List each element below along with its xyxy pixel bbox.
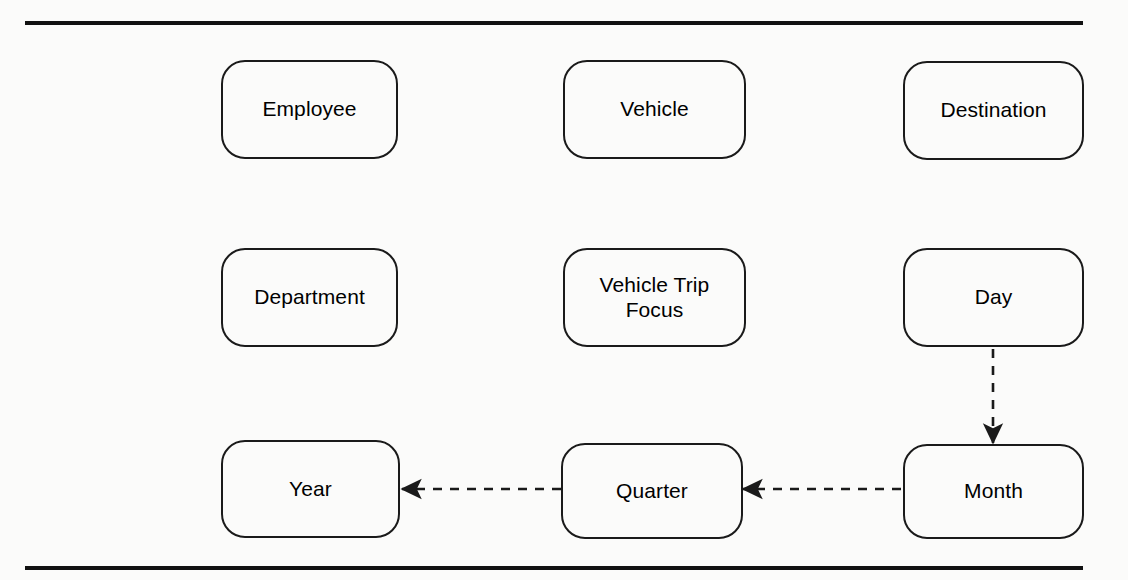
node-department[interactable]: Department: [221, 248, 398, 347]
node-fact-label-line2: Focus: [600, 298, 710, 323]
node-month-label: Month: [964, 479, 1023, 504]
node-employee-label: Employee: [262, 97, 356, 122]
node-year[interactable]: Year: [221, 440, 400, 538]
node-day-label: Day: [975, 285, 1013, 310]
figure-canvas: Employee Vehicle Destination Department …: [0, 0, 1128, 580]
node-department-label: Department: [254, 285, 365, 310]
node-vehicle-trip-focus-label: Vehicle Trip Focus: [600, 273, 710, 323]
node-quarter-label: Quarter: [616, 479, 688, 504]
node-destination-label: Destination: [940, 98, 1046, 123]
bottom-rule: [25, 566, 1083, 570]
node-vehicle[interactable]: Vehicle: [563, 60, 746, 159]
node-year-label: Year: [289, 477, 332, 502]
node-fact-label-line1: Vehicle Trip: [600, 273, 710, 296]
node-vehicle-label: Vehicle: [620, 97, 688, 122]
node-month[interactable]: Month: [903, 444, 1084, 539]
node-employee[interactable]: Employee: [221, 60, 398, 159]
top-rule: [25, 21, 1083, 25]
node-destination[interactable]: Destination: [903, 61, 1084, 160]
node-day[interactable]: Day: [903, 248, 1084, 347]
node-quarter[interactable]: Quarter: [561, 443, 743, 539]
node-vehicle-trip-focus[interactable]: Vehicle Trip Focus: [563, 248, 746, 347]
